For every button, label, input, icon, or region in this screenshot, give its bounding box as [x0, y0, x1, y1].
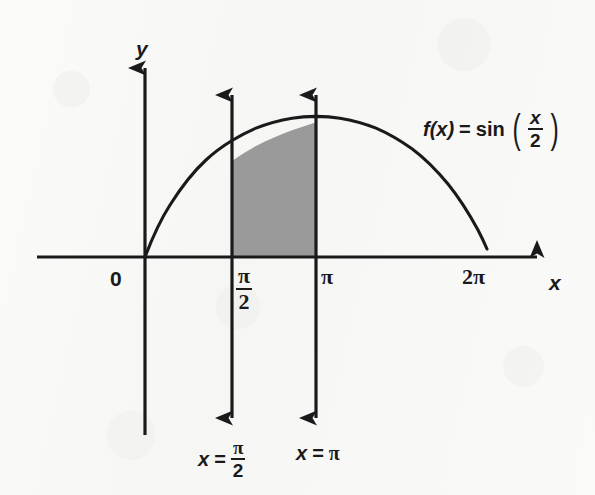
- graph-svg: [0, 0, 595, 495]
- function-arg-numerator: x: [528, 108, 543, 130]
- x-tick-pi-over-2-numerator: π: [236, 265, 252, 290]
- function-name: f(x): [423, 119, 454, 139]
- function-open-paren: (: [512, 112, 520, 146]
- y-axis-label: y: [136, 38, 148, 59]
- function-arg-denominator: 2: [528, 130, 543, 150]
- caption-1-numerator: π: [231, 438, 245, 460]
- x-tick-label-pi: π: [321, 266, 333, 288]
- caption-1-denominator: 2: [231, 460, 246, 480]
- function-equals-sign: =: [459, 119, 471, 139]
- caption-2-equals: =: [312, 443, 324, 463]
- caption-2-value: π: [329, 443, 340, 463]
- caption-1-variable: x: [198, 449, 209, 469]
- x-tick-label-2pi: 2π: [462, 266, 485, 288]
- function-close-paren: ): [550, 112, 558, 146]
- figure-canvas: y x 0 π 2 π 2π f(x) = sin ( x 2 ) x = π …: [0, 0, 595, 495]
- x-tick-pi-over-2-denominator: 2: [237, 290, 252, 313]
- caption-1-equals: =: [214, 449, 226, 469]
- x-tick-label-pi-over-2: π 2: [236, 265, 252, 313]
- function-equation-label: f(x) = sin ( x 2 ): [423, 108, 561, 150]
- shaded-area-region: [232, 122, 316, 257]
- caption-2-variable: x: [296, 443, 307, 463]
- x-tick-label-0: 0: [110, 268, 122, 289]
- x-axis-label: x: [549, 272, 561, 293]
- caption-x-equals-pi-over-2: x = π 2: [198, 438, 245, 480]
- caption-x-equals-pi: x = π: [296, 443, 340, 463]
- function-operator: sin: [476, 119, 505, 139]
